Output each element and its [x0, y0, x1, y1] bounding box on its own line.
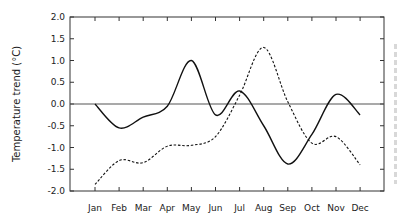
x-tick-label: Jul [233, 203, 245, 213]
x-tick-label: Oct [304, 203, 320, 213]
y-tick-label: -1.5 [47, 164, 65, 174]
x-axis: JanFebMarAprMayJunJulAugSepOctNovDec [87, 17, 369, 213]
x-tick-label: Feb [111, 203, 127, 213]
y-tick-label: 1.0 [51, 56, 66, 66]
y-tick-label: 1.5 [51, 34, 65, 44]
y-tick-label: 2.0 [51, 12, 66, 22]
y-tick-label: 0.0 [51, 99, 66, 109]
edge-artifact [394, 44, 397, 184]
x-tick-label: Nov [327, 203, 345, 213]
y-tick-label: 0.5 [51, 77, 65, 87]
x-tick-label: Sep [279, 203, 296, 213]
x-tick-label: Apr [160, 203, 176, 213]
series-dashed-line [95, 47, 360, 184]
y-tick-label: -0.5 [47, 121, 65, 131]
y-axis-title: Temperature trend (°C) [11, 46, 22, 163]
x-tick-label: Mar [135, 203, 152, 213]
series-lines [95, 47, 360, 184]
y-tick-label: -1.0 [47, 143, 65, 153]
series-solid-line [95, 60, 360, 164]
line-chart: 2.01.51.00.50.0-0.5-1.0-1.5-2.0 JanFebMa… [0, 0, 401, 219]
x-tick-label: Jun [207, 203, 222, 213]
y-tick-label: -2.0 [47, 186, 65, 196]
x-tick-label: May [182, 203, 201, 213]
x-tick-label: Jan [87, 203, 102, 213]
x-tick-label: Dec [351, 203, 368, 213]
x-tick-label: Aug [255, 203, 273, 213]
